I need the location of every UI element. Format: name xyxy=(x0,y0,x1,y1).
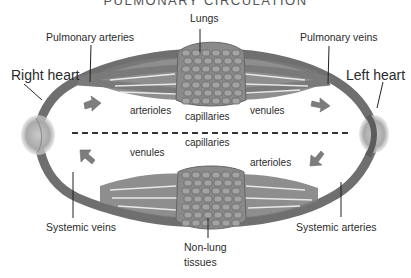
label-pulmonary-arteries: Pulmonary arteries xyxy=(46,32,134,43)
tissue-cell xyxy=(222,220,230,226)
tissue-cell xyxy=(224,58,232,64)
tissue-cell xyxy=(182,82,190,88)
tissue-cell xyxy=(202,98,210,104)
tissue-cell xyxy=(202,204,210,210)
label-left-heart: Left heart xyxy=(346,68,405,82)
tissue-cell xyxy=(204,74,212,80)
tissue-cell xyxy=(234,180,242,186)
tissue-cell xyxy=(202,66,210,72)
tissue-cell xyxy=(204,180,212,186)
tissue-cell xyxy=(204,58,212,64)
tissue-cell xyxy=(194,58,202,64)
label-bottom-arterioles: arterioles xyxy=(250,158,291,168)
tissue-cell xyxy=(224,212,232,218)
tissue-cell xyxy=(184,212,192,218)
label-bottom-venules: venules xyxy=(130,148,164,158)
tissue-cell xyxy=(224,74,232,80)
tissue-cell xyxy=(184,90,192,96)
tissue-cell xyxy=(192,220,200,226)
tissue-cell xyxy=(202,220,210,226)
tissue-cell xyxy=(182,172,190,178)
label-non-lung: Non-lung xyxy=(184,242,227,253)
tissue-cell xyxy=(234,90,242,96)
tissue-cell xyxy=(184,196,192,202)
tissue-cell xyxy=(214,196,222,202)
tissue-cell xyxy=(232,98,240,104)
tissue-cell xyxy=(214,90,222,96)
tissue-cell xyxy=(192,50,200,56)
tissue-cell xyxy=(204,212,212,218)
tissue-cell xyxy=(182,220,190,226)
label-bottom-capillaries: capillaries xyxy=(185,138,229,148)
tissue-cell xyxy=(234,212,242,218)
tissue-cell xyxy=(194,180,202,186)
tissue-cell xyxy=(232,50,240,56)
tissue-cell xyxy=(214,74,222,80)
tissue-cell xyxy=(192,82,200,88)
circulation-diagram: PULMONARY CIRCULATION xyxy=(0,0,411,278)
tissue-cell xyxy=(192,98,200,104)
tissue-cell xyxy=(182,204,190,210)
tissue-cell xyxy=(184,74,192,80)
tissue-cell xyxy=(202,50,210,56)
tissue-cell xyxy=(232,204,240,210)
tissue-cell xyxy=(192,172,200,178)
tissue-cell xyxy=(224,180,232,186)
label-systemic-arteries: Systemic arteries xyxy=(296,222,377,233)
tissue-cell xyxy=(194,196,202,202)
tissue-cell xyxy=(194,212,202,218)
tissue-cell xyxy=(214,58,222,64)
tissue-cell xyxy=(222,98,230,104)
label-systemic-veins: Systemic veins xyxy=(46,222,116,233)
tissue-cell xyxy=(224,90,232,96)
tissue-cell xyxy=(182,50,190,56)
tissue-cell xyxy=(182,66,190,72)
leader-right-heart xyxy=(24,84,42,100)
tissue-cell xyxy=(212,66,220,72)
tissue-cell xyxy=(232,82,240,88)
tissue-cell xyxy=(232,172,240,178)
tissue-cell xyxy=(202,188,210,194)
tissue-cell xyxy=(222,188,230,194)
flow-arrow-top-right-icon xyxy=(311,98,330,112)
tissue-cell xyxy=(232,66,240,72)
tissue-cell xyxy=(192,188,200,194)
tissue-cell xyxy=(192,66,200,72)
label-pulmonary-veins: Pulmonary veins xyxy=(300,32,378,43)
tissue-cell xyxy=(184,58,192,64)
label-top-capillaries: capillaries xyxy=(185,112,229,122)
tissue-cell xyxy=(204,196,212,202)
tissue-cell xyxy=(234,58,242,64)
flow-arrow-top-left-icon xyxy=(84,96,101,111)
tissue-cell xyxy=(214,212,222,218)
tissue-cell xyxy=(232,188,240,194)
label-tissues: tissues xyxy=(184,257,217,268)
label-right-heart: Right heart xyxy=(11,68,79,82)
tissue-cell xyxy=(202,172,210,178)
flow-arrow-bottom-left-icon xyxy=(80,150,95,164)
tissue-cell xyxy=(184,180,192,186)
tissue-cell xyxy=(234,74,242,80)
tissue-cell xyxy=(222,204,230,210)
flow-arrow-bottom-right-icon xyxy=(310,151,324,166)
tissue-cell xyxy=(194,90,202,96)
tissue-cell xyxy=(222,66,230,72)
tissue-cell xyxy=(222,172,230,178)
tissue-cell xyxy=(212,172,220,178)
tissue-cell xyxy=(212,50,220,56)
tissue-cell xyxy=(212,82,220,88)
tissue-cell xyxy=(202,82,210,88)
tissue-cell xyxy=(222,50,230,56)
non-lung-tissue xyxy=(176,166,246,229)
tissue-cell xyxy=(232,220,240,226)
tissue-cell xyxy=(212,188,220,194)
tissue-cell xyxy=(212,204,220,210)
label-top-arterioles: arterioles xyxy=(130,106,171,116)
tissue-cell xyxy=(212,220,220,226)
label-top-venules: venules xyxy=(250,106,284,116)
label-lungs: Lungs xyxy=(190,13,219,24)
tissue-cell xyxy=(182,98,190,104)
tissue-cell xyxy=(234,196,242,202)
tissue-cell xyxy=(224,196,232,202)
tissue-cell xyxy=(222,82,230,88)
